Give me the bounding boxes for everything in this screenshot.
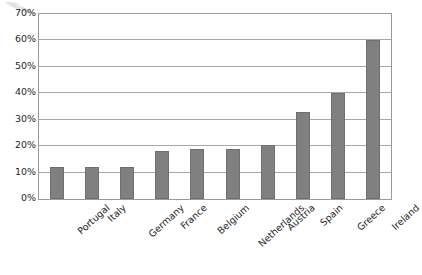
- x-axis-tick-label: Ireland: [390, 202, 422, 232]
- x-axis-tick-label: Italy: [105, 202, 128, 224]
- y-axis-tick-label: 30%: [2, 114, 36, 124]
- y-axis-tick-label: 40%: [2, 88, 36, 98]
- y-axis: 0%10%20%30%40%50%60%70%: [0, 0, 36, 275]
- y-axis-tick-label: 10%: [2, 167, 36, 177]
- plot-area: [38, 13, 392, 200]
- bar: [190, 149, 204, 199]
- bar: [226, 149, 240, 199]
- x-axis-tick-label: Belgium: [215, 202, 251, 236]
- bar: [296, 112, 310, 199]
- y-axis-tick-label: 60%: [2, 35, 36, 45]
- bar: [261, 145, 275, 199]
- bar: [155, 151, 169, 199]
- bar: [50, 167, 64, 199]
- bars-layer: [39, 14, 391, 199]
- y-axis-tick-label: 0%: [2, 193, 36, 203]
- x-axis-tick-label: Spain: [318, 202, 345, 228]
- x-axis: PortugalItalyGermanyFranceBelgiumNetherl…: [38, 200, 392, 275]
- y-axis-tick-label: 70%: [2, 8, 36, 18]
- x-axis-tick-label: Portugal: [75, 202, 112, 237]
- bar: [120, 167, 134, 199]
- bar: [85, 167, 99, 199]
- bar: [331, 93, 345, 199]
- y-axis-tick-label: 50%: [2, 61, 36, 71]
- x-axis-tick-label: Greece: [355, 202, 387, 233]
- bar: [366, 40, 380, 199]
- y-axis-tick-label: 20%: [2, 140, 36, 150]
